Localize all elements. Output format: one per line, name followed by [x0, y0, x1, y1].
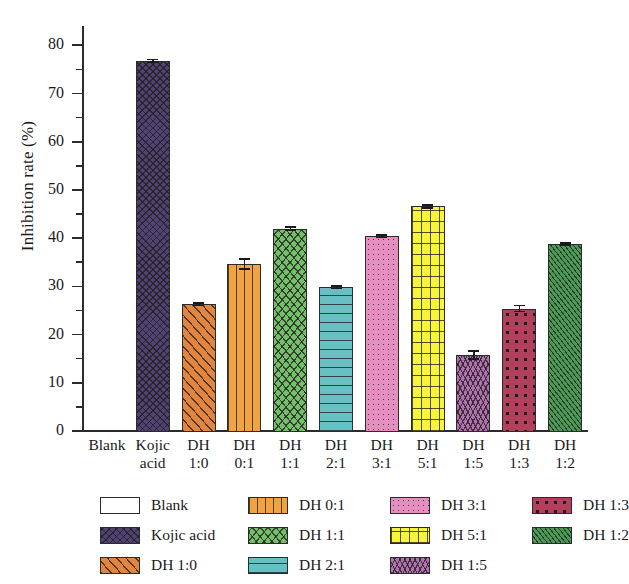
swatch-dh-5-1-icon — [390, 527, 430, 544]
swatch-dh-1-0-icon — [100, 557, 140, 574]
y-tick-label: 10 — [24, 375, 64, 389]
error-bar — [468, 350, 479, 360]
legend-item[interactable]: DH 1:0 — [100, 556, 197, 574]
swatch-blank-icon — [100, 497, 140, 514]
error-bar — [331, 285, 342, 289]
legend-label: Kojic acid — [151, 526, 215, 544]
bar-dh-1-5 — [456, 355, 490, 432]
y-tick-label: 0 — [24, 423, 64, 437]
x-category-label: DH 1:2 — [534, 436, 596, 472]
error-bar — [147, 59, 158, 63]
swatch-dh-1-1-icon — [248, 527, 288, 544]
swatch-kojic-acid-icon — [100, 527, 140, 544]
legend-label: DH 1:2 — [583, 526, 629, 544]
swatch-dh-2-1-icon — [248, 557, 288, 574]
swatch-dh-1-3-icon — [532, 497, 572, 514]
y-tick-label: 50 — [24, 182, 64, 196]
legend-item[interactable]: Kojic acid — [100, 526, 215, 544]
legend-label: DH 2:1 — [299, 556, 345, 574]
legend-item[interactable]: DH 0:1 — [248, 496, 345, 514]
plot-area: Inhibition rate (%) 01020304050607080 Bl… — [0, 0, 596, 470]
legend-item[interactable]: DH 1:5 — [390, 556, 487, 574]
y-tick-label: 30 — [24, 278, 64, 292]
error-bar — [285, 226, 296, 231]
swatch-dh-1-2-icon — [532, 527, 572, 544]
bar-dh-3-1 — [365, 236, 399, 432]
swatch-dh-0-1-icon — [248, 497, 288, 514]
bar-dh-5-1 — [411, 206, 445, 432]
bar-dh-2-1 — [319, 287, 353, 432]
swatch-dh-3-1-icon — [390, 497, 430, 514]
error-bar — [376, 234, 387, 238]
legend-item[interactable]: DH 2:1 — [248, 556, 345, 574]
bar-dh-0-1 — [227, 264, 261, 432]
y-tick-label: 80 — [24, 37, 64, 51]
legend-label: Blank — [151, 496, 188, 514]
legend-item[interactable]: DH 5:1 — [390, 526, 487, 544]
x-axis-category-labels: BlankKojic acidDH 1:0DH 0:1DH 1:1DH 2:1D… — [84, 436, 588, 480]
error-bar — [422, 204, 433, 209]
legend-label: DH 0:1 — [299, 496, 345, 514]
y-tick-label: 40 — [24, 230, 64, 244]
error-bar — [239, 258, 250, 270]
bar-dh-1-2 — [548, 244, 582, 432]
bar-dh-1-0 — [182, 304, 216, 432]
bar-dh-1-3 — [502, 309, 536, 432]
error-bar — [514, 305, 525, 313]
y-tick-label: 70 — [24, 86, 64, 100]
bar-series — [84, 26, 588, 432]
bar-dh-1-1 — [273, 229, 307, 432]
legend-label: DH 1:1 — [299, 526, 345, 544]
legend-item[interactable]: DH 3:1 — [390, 496, 487, 514]
legend-label: DH 1:0 — [151, 556, 197, 574]
legend-item[interactable]: DH 1:2 — [532, 526, 629, 544]
legend-label: DH 5:1 — [441, 526, 487, 544]
error-bar — [193, 302, 204, 306]
legend-label: DH 3:1 — [441, 496, 487, 514]
bar-kojic-acid — [136, 61, 170, 432]
swatch-dh-1-5-icon — [390, 557, 430, 574]
chart-legend: BlankKojic acidDH 1:0DH 0:1DH 1:1DH 2:1D… — [100, 496, 596, 584]
error-bar — [560, 242, 571, 246]
legend-item[interactable]: DH 1:3 — [532, 496, 629, 514]
legend-item[interactable]: DH 1:1 — [248, 526, 345, 544]
legend-label: DH 1:5 — [441, 556, 487, 574]
legend-label: DH 1:3 — [583, 496, 629, 514]
legend-item[interactable]: Blank — [100, 496, 188, 514]
y-tick-label: 60 — [24, 134, 64, 148]
y-tick-label: 20 — [24, 327, 64, 341]
